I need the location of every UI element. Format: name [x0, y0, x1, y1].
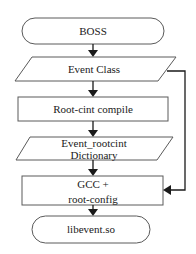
node-boss-label: BOSS: [79, 25, 107, 37]
arrowhead-icon: [88, 50, 98, 57]
arrowhead-icon: [88, 169, 98, 176]
arrowhead-icon: [88, 90, 98, 97]
node-gcc-label-line1: GCC +: [77, 178, 109, 190]
node-event-class-label: Event Class: [68, 63, 120, 75]
arrow-dictionary-to-gcc: [88, 160, 98, 176]
arrow-gcc-to-libevent: [88, 205, 98, 216]
node-dictionary: Event_rootcint Dictionary: [16, 137, 173, 161]
node-dictionary-label-line1: Event_rootcint: [61, 137, 126, 149]
node-rootcint-compile-label: Root-cint compile: [53, 103, 133, 115]
arrow-boss-to-event-class: [88, 44, 98, 57]
node-dictionary-label-line2: Dictionary: [70, 149, 118, 161]
node-rootcint-compile: Root-cint compile: [18, 97, 168, 121]
flowchart: BOSS Event Class Root-cint compile Event…: [0, 0, 196, 254]
arrowhead-icon: [163, 185, 171, 195]
arrow-event-class-to-rootcint: [88, 81, 98, 97]
node-boss: BOSS: [22, 18, 164, 44]
node-gcc-label-line2: root-config: [68, 193, 118, 205]
node-event-class: Event Class: [15, 57, 176, 81]
node-libevent: libevent.so: [32, 216, 150, 243]
node-gcc: GCC + root-config: [22, 176, 163, 205]
node-libevent-label: libevent.so: [67, 223, 115, 235]
arrowhead-icon: [88, 209, 98, 216]
arrow-rootcint-to-dictionary: [88, 121, 98, 137]
arrowhead-icon: [88, 130, 98, 137]
arrow-event-class-to-gcc-bypass: [163, 71, 185, 195]
